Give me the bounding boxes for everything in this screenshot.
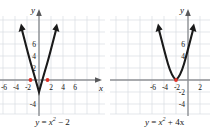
caption-exponent: 2: [53, 116, 56, 122]
x-tick-label: -6: [1, 83, 7, 92]
graph-panel-left: y x -6 -4 -2 2 4 6 6 4 2 -4: [0, 0, 105, 138]
x-tick-label: -2: [25, 83, 31, 92]
caption-operator: +: [168, 117, 173, 127]
y-axis-right: [185, 9, 191, 116]
intercept-point: [29, 78, 33, 82]
x-axis-label-left: x: [98, 83, 103, 93]
caption-equals: =: [151, 117, 156, 127]
y-tick-label: 4: [32, 52, 36, 61]
caption-constant: 2: [65, 117, 70, 127]
x-tick-label: -4: [162, 83, 168, 92]
y-tick-label: 6: [32, 40, 36, 49]
x-tick-label: 4: [61, 83, 65, 92]
caption-operator: −: [58, 117, 63, 127]
y-tick-label: -4: [179, 100, 185, 109]
y-tick-label: 6: [181, 40, 185, 49]
x-tick-label: 6: [73, 83, 77, 92]
y-axis-left: [36, 9, 42, 116]
coordinate-plane-right: y -6 -4 -2 2 6 4 -2 -4: [105, 0, 210, 118]
coordinate-plane-left: y x -6 -4 -2 2 4 6 6 4 2 -4: [0, 0, 105, 118]
graph-panel-right: y -6 -4 -2 2 6 4 -2 -4: [105, 0, 210, 138]
y-axis-label-right: y: [179, 5, 184, 15]
x-tick-label: 2: [198, 83, 202, 92]
y-tick-label: -4: [30, 100, 36, 109]
parabola-figure-pair: y x -6 -4 -2 2 4 6 6 4 2 -4: [0, 0, 210, 138]
x-tick-label: 2: [49, 83, 53, 92]
caption-exponent: 2: [163, 116, 166, 122]
plot-area-right: y -6 -4 -2 2 6 4 -2 -4: [105, 0, 210, 118]
intercept-point: [46, 78, 50, 82]
x-tick-label: -6: [150, 83, 156, 92]
equation-caption-right: y = x2 + 4x: [145, 116, 210, 127]
x-tick-label: -4: [13, 83, 19, 92]
vertex-point: [174, 78, 178, 82]
caption-equals: =: [41, 117, 46, 127]
x-tick-labels-right: -6 -4 -2 2: [150, 83, 202, 92]
plot-area-left: y x -6 -4 -2 2 4 6 6 4 2 -4: [0, 0, 105, 118]
equation-caption-left: y = x2 − 2: [0, 116, 105, 127]
caption-lhs: y: [145, 117, 149, 127]
y-axis-label-left: y: [30, 5, 35, 15]
caption-constant: 4x: [175, 117, 184, 127]
grid-lines-left: [0, 16, 105, 114]
y-tick-label: -2: [179, 88, 185, 97]
